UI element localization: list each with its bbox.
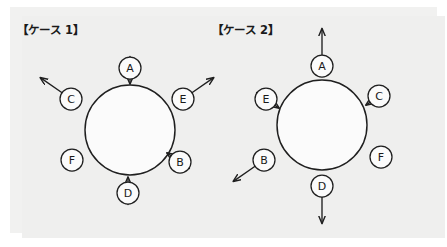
case2-main-circle <box>277 80 367 170</box>
case2-node-label-e: E <box>263 93 270 106</box>
case2-node-label-d: D <box>318 180 326 193</box>
case1-arrow-c <box>41 78 63 93</box>
case1-node-c: C <box>41 78 82 110</box>
case1-main-circle <box>85 85 175 175</box>
case2-arrow-b <box>234 166 256 181</box>
case2-node-b: B <box>234 149 275 181</box>
case2-node-label-b: B <box>260 154 268 167</box>
case2-node-label-f: F <box>378 151 384 164</box>
case1-node-label-a: A <box>126 62 134 75</box>
case1-node-label-c: C <box>67 93 75 106</box>
case1-node-e: E <box>172 78 213 110</box>
case1-node-f: F <box>61 149 83 171</box>
case1-node-label-f: F <box>69 154 75 167</box>
case1-node-b: B <box>167 151 191 173</box>
case-1-group: ACEBFD <box>41 57 214 205</box>
force-diagram-svg: ACEBFD AECBFD <box>0 0 447 247</box>
case-2-group: AECBFD <box>234 29 392 223</box>
diagram-scene: 【ケース 1】 【ケース 2】 ACEBFD AECBFD <box>0 0 447 247</box>
case1-node-a: A <box>119 57 141 84</box>
case1-node-label-b: B <box>176 156 184 169</box>
case2-node-label-c: C <box>375 90 383 103</box>
case2-node-label-a: A <box>318 60 326 73</box>
case1-arrow-e <box>191 78 213 93</box>
case2-node-e: E <box>255 88 279 110</box>
case2-node-f: F <box>370 146 392 168</box>
case2-node-d: D <box>311 175 333 223</box>
case1-node-label-d: D <box>124 187 132 200</box>
case2-node-c: C <box>366 85 390 107</box>
case1-node-label-e: E <box>180 93 187 106</box>
case1-node-d: D <box>117 178 139 205</box>
case2-node-a: A <box>311 29 333 77</box>
